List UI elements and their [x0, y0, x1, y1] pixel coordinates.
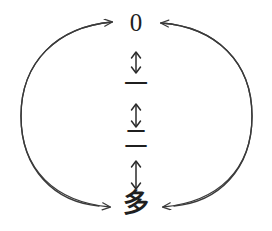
node-label-zero: 0: [106, 10, 166, 35]
node-label-two: 二: [106, 127, 166, 151]
node-column: 0 一 二 多: [0, 0, 272, 231]
node-label-many: 多: [106, 191, 166, 217]
diagram-canvas: 0 一 二 多: [0, 0, 272, 231]
node-label-one: 一: [106, 72, 166, 96]
